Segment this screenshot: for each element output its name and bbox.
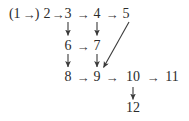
node-7: 7 — [94, 39, 101, 53]
node-3: 3 — [65, 7, 72, 21]
node-6: 6 — [65, 39, 72, 53]
edge-6-to-7-arrow-icon: → — [77, 40, 90, 53]
node-11: 11 — [165, 70, 178, 84]
node-2: 2 — [44, 7, 51, 21]
node-4: 4 — [94, 7, 101, 21]
edge-10-to-11-arrow-icon: → — [147, 71, 160, 84]
edge-8-to-9-arrow-icon: → — [77, 71, 90, 84]
edge-2-to-3-arrow-icon: → — [52, 8, 65, 21]
edge-4-to-5-arrow-icon: → — [106, 8, 119, 21]
edge-5-to-9 — [104, 22, 130, 68]
node-1: 1 — [14, 7, 21, 21]
node-8: 8 — [65, 70, 72, 84]
diagram-canvas: ( 1 → ) 2 → 3 → 4 → 5 6 → 7 8 → 9 → 10 →… — [0, 0, 189, 121]
paren-close: ) — [35, 7, 40, 21]
node-12: 12 — [126, 101, 140, 115]
node-5: 5 — [123, 7, 130, 21]
edge-9-to-10-arrow-icon: → — [106, 71, 119, 84]
edge-1-to-2-arrow-icon: → — [23, 8, 36, 21]
node-10: 10 — [126, 70, 140, 84]
edge-3-to-4-arrow-icon: → — [77, 8, 90, 21]
node-9: 9 — [94, 70, 101, 84]
